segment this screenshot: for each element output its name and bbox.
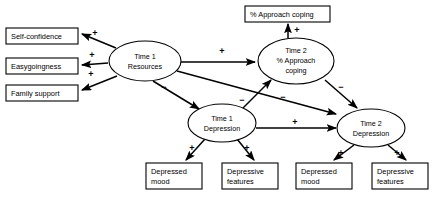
edge-resources-to-easygoingness — [82, 63, 108, 65]
sign-resources-to-t2-depression: − — [280, 92, 285, 102]
node-family-support-label: Family support — [11, 89, 59, 98]
node-t1-depression[interactable]: Time 1 Depression — [188, 104, 256, 142]
path-diagram: Self-confidence Easygoingness Family sup… — [0, 0, 432, 197]
node-t2-depressed-mood[interactable]: Depressed mood — [296, 163, 352, 189]
node-easygoingness[interactable]: Easygoingness — [6, 58, 78, 74]
node-t1-depression-label-line2: Depression — [204, 124, 240, 133]
diagram-canvas: Self-confidence Easygoingness Family sup… — [0, 0, 432, 197]
node-t1-depressed-mood-label-line2: mood — [151, 177, 170, 186]
node-easygoingness-label: Easygoingness — [11, 62, 61, 71]
node-t2-approach-coping[interactable]: Time 2 % Approach coping — [258, 38, 334, 84]
node-t2-depression-label-line2: Depression — [353, 129, 389, 138]
node-t1-depressive-features[interactable]: Depressive features — [222, 163, 278, 189]
sign-t1-depression-to-depressed-mood: + — [189, 143, 194, 153]
node-self-confidence[interactable]: Self-confidence — [6, 28, 78, 44]
node-t2-approach-coping-label-line3: coping — [285, 66, 306, 75]
node-t2-approach-coping-label-line2: % Approach — [277, 56, 316, 65]
node-t2-depressed-mood-label-line1: Depressed — [301, 167, 337, 176]
node-t2-depressive-features-label-line2: features — [377, 177, 404, 186]
node-t1-depressive-features-label-line1: Depressive — [227, 167, 264, 176]
box-node-group: Self-confidence Easygoingness Family sup… — [6, 6, 428, 189]
sign-resources-to-t1-depression: − — [161, 82, 166, 92]
node-t2-depressive-features-label-line1: Depressive — [377, 167, 414, 176]
edge-resources-to-self-confidence — [82, 34, 116, 48]
node-t2-depression[interactable]: Time 2 Depression — [337, 109, 405, 147]
sign-resources-to-t2-coping: + — [219, 46, 224, 56]
node-t1-resources[interactable]: Time 1 Resources — [109, 41, 181, 81]
sign-resources-to-self-confidence: + — [92, 28, 97, 38]
node-approach-coping-label: % Approach coping — [250, 10, 314, 19]
node-self-confidence-label: Self-confidence — [11, 32, 62, 41]
sign-t2-coping-to-approach-coping: + — [294, 25, 299, 35]
sign-resources-to-family-support: + — [88, 69, 93, 79]
node-approach-coping[interactable]: % Approach coping — [245, 6, 330, 22]
node-t2-approach-coping-label-line1: Time 2 — [285, 46, 307, 55]
node-t2-depressed-mood-label-line2: mood — [301, 177, 320, 186]
edge-resources-to-t1-depression — [153, 81, 199, 109]
edge-t2-depression-to-depressed-mood — [334, 145, 354, 160]
sign-t1-depression-to-t2-coping: − — [239, 95, 244, 105]
node-t2-depressive-features[interactable]: Depressive features — [372, 163, 428, 189]
node-t1-depression-label-line1: Time 1 — [211, 114, 233, 123]
sign-t1-depression-to-t2-depression: + — [292, 117, 297, 127]
sign-t2-coping-to-t2-depression: − — [338, 82, 343, 92]
node-t1-depressed-mood[interactable]: Depressed mood — [146, 163, 202, 189]
node-family-support[interactable]: Family support — [6, 85, 78, 101]
node-t1-resources-label-line1: Time 1 — [134, 52, 156, 61]
node-t1-depressive-features-label-line2: features — [227, 177, 254, 186]
node-t1-resources-label-line2: Resources — [128, 62, 163, 71]
sign-t2-depression-to-depressed-mood: + — [338, 148, 343, 158]
node-t1-depressed-mood-label-line1: Depressed — [151, 167, 187, 176]
sign-t1-depression-to-depressive-features: + — [244, 143, 249, 153]
sign-t2-depression-to-depressive-features: + — [394, 148, 399, 158]
sign-resources-to-easygoingness: + — [89, 50, 94, 60]
edge-resources-to-family-support — [82, 76, 117, 90]
node-t2-depression-label-line1: Time 2 — [360, 119, 382, 128]
